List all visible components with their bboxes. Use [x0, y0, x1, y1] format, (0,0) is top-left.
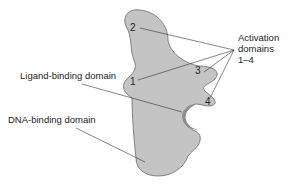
receptor-shape [0, 0, 294, 186]
domain-number-3: 3 [195, 65, 201, 76]
activation-domains-label: Activation domains 1–4 [238, 32, 279, 65]
domain-number-2: 2 [130, 22, 136, 33]
domain-number-4: 4 [205, 96, 211, 107]
domain-number-1: 1 [130, 76, 136, 87]
receptor-domain-diagram: 2 1 3 4 Activation domains 1–4 Ligand-bi… [0, 0, 294, 186]
activation-line-1: Activation [238, 32, 279, 43]
dna-binding-label: DNA-binding domain [8, 114, 96, 125]
activation-line-3: 1–4 [238, 54, 279, 65]
ligand-binding-label: Ligand-binding domain [20, 70, 116, 81]
activation-line-2: domains [238, 43, 279, 54]
